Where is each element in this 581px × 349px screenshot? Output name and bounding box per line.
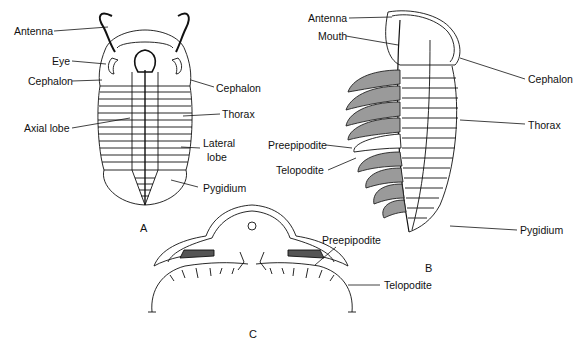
label-a-antenna: Antenna <box>14 25 53 37</box>
label-c-preepipodite: Preepipodite <box>322 234 381 246</box>
label-b-antenna: Antenna <box>308 12 347 24</box>
label-b-pygidium: Pygidium <box>520 224 563 236</box>
label-c-telopodite: Telopodite <box>384 279 432 291</box>
trilobite-c-cross-section <box>148 205 356 312</box>
label-b-cephalon: Cephalon <box>528 73 573 85</box>
label-b-thorax: Thorax <box>528 119 561 131</box>
label-a-thorax: Thorax <box>222 108 255 120</box>
label-a-pygidium: Pygidium <box>203 182 246 194</box>
label-a-eye: Eye <box>52 55 70 67</box>
panel-label-a: A <box>140 222 147 234</box>
panel-label-b: B <box>425 262 432 274</box>
label-b-mouth: Mouth <box>318 30 347 42</box>
trilobite-anatomy-figure: Antenna Eye Cephalon Axial lobe Cephalon… <box>0 0 581 349</box>
label-b-telopodite: Telopodite <box>276 164 324 176</box>
label-a-lateral-lobe-line2: lobe <box>207 151 227 163</box>
panel-label-c: C <box>249 328 257 340</box>
label-a-axial-lobe: Axial lobe <box>24 122 70 134</box>
trilobite-a-drawing <box>98 14 192 205</box>
label-a-cephalon-right: Cephalon <box>216 82 261 94</box>
label-a-lateral-lobe-line1: Lateral <box>203 137 235 149</box>
label-a-cephalon-left: Cephalon <box>28 75 73 87</box>
label-b-preepipodite: Preepipodite <box>268 139 327 151</box>
